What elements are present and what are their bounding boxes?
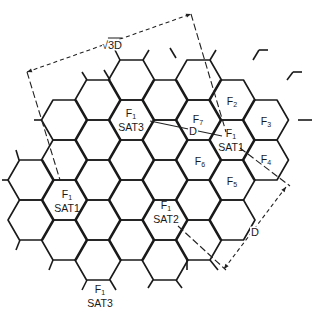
satellite-label: SAT1 — [218, 142, 243, 153]
cell-label-f1-sat2: F1SAT2 — [153, 200, 178, 225]
hex-edge-stub — [253, 50, 259, 60]
hex-edge-stub — [16, 240, 20, 250]
hex-cell — [42, 220, 88, 260]
hex-edge-stub — [82, 280, 87, 290]
arrowhead-icon — [186, 14, 191, 18]
cell-label-f1-sat3-lower: F1SAT3 — [87, 284, 112, 309]
hex-cell — [75, 80, 121, 120]
hex-cell — [142, 80, 188, 120]
hex-cell — [75, 120, 121, 160]
arrowhead-icon — [281, 187, 286, 192]
hex-cell — [42, 140, 88, 180]
hex-edge-stub — [210, 50, 216, 60]
frequency-label: F3 — [261, 116, 271, 128]
cell-label-f5: F5 — [227, 176, 237, 188]
hex-edge-stub — [49, 260, 53, 270]
cell-label-f3: F3 — [261, 116, 271, 128]
hex-edge-stub — [143, 50, 149, 60]
satellite-label: SAT2 — [153, 214, 178, 225]
hex-cell — [209, 200, 255, 240]
hex-edge-stub — [148, 280, 153, 288]
satellite-label: SAT3 — [87, 298, 112, 309]
frequency-label: F1 — [153, 200, 178, 212]
hex-cell — [142, 120, 188, 160]
hex-grid — [8, 60, 289, 280]
d-reuse-distance-line — [150, 121, 222, 136]
hex-cell — [75, 160, 121, 200]
hex-cell — [8, 200, 54, 240]
cell-label-f1-sat1-right: F1SAT1 — [218, 128, 243, 153]
hex-edge-stub — [176, 280, 182, 288]
arrowhead-icon — [27, 68, 32, 72]
hex-cell — [176, 220, 222, 260]
hex-edge-stub — [16, 150, 19, 160]
frequency-label: F5 — [227, 176, 237, 188]
satellite-label: SAT1 — [54, 203, 79, 214]
cell-label-f6: F6 — [195, 156, 205, 168]
hex-cell — [75, 240, 121, 280]
frequency-label: F1 — [87, 284, 112, 296]
arrowhead-icon — [224, 264, 229, 269]
cell-label-f4: F4 — [261, 154, 271, 166]
cell-label-f2: F2 — [227, 96, 237, 108]
hex-edge-stub — [115, 50, 120, 60]
hex-edge-stub — [104, 70, 110, 80]
satellite-label: SAT3 — [118, 122, 143, 133]
d-center-label: D — [188, 126, 198, 137]
hex-cell — [142, 240, 188, 280]
hex-edge-stub — [287, 72, 293, 80]
hex-cell — [109, 180, 155, 220]
hex-cell — [8, 160, 54, 200]
hex-cell — [75, 200, 121, 240]
frequency-label: F2 — [227, 96, 237, 108]
frequency-label: F4 — [261, 154, 271, 166]
frequency-label: F1 — [218, 128, 243, 140]
hex-cell — [142, 160, 188, 200]
sqrt3d-value: 3D — [108, 38, 122, 51]
cell-label-f1-sat1-left: F1SAT1 — [54, 189, 79, 214]
sqrt3d-dimension-label: √3D — [102, 40, 122, 51]
hex-cell — [42, 100, 88, 140]
frequency-label: F1 — [54, 189, 79, 201]
hex-cell — [109, 220, 155, 260]
frequency-label: F1 — [118, 108, 143, 120]
hex-cell — [109, 140, 155, 180]
hex-edge-stub — [170, 48, 176, 58]
frequency-label: F6 — [195, 156, 205, 168]
hex-cell — [109, 60, 155, 100]
d-side-label: D — [250, 227, 260, 238]
hex-edge-stub — [82, 72, 87, 80]
cell-label-f1-sat3-upper: F1SAT3 — [118, 108, 143, 133]
hex-cell — [176, 180, 222, 220]
